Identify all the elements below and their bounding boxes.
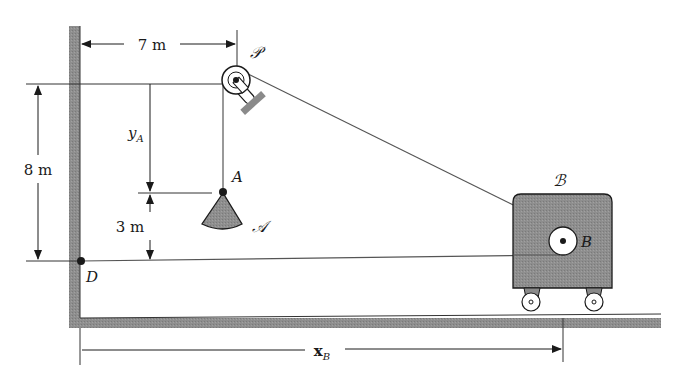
point-A-dot [219, 188, 227, 196]
dimension-3m-label: 3 m [116, 218, 145, 236]
dimension-3m: 3 m [116, 195, 150, 259]
wall [69, 26, 80, 328]
dimension-7m-label: 7 m [138, 36, 167, 54]
point-A-label: A [230, 168, 243, 186]
dimension-7m: 7 m [82, 36, 235, 54]
body-A-label: 𝒜 [252, 217, 272, 236]
cart-B: B ℬ [513, 171, 612, 311]
cart-wheel-left [522, 288, 540, 311]
mass-A-body [202, 193, 242, 229]
dimension-yA: yA [127, 84, 150, 191]
dimension-yA-label: yA [127, 124, 144, 144]
floor [69, 314, 661, 328]
dimension-xB-label: xB [314, 342, 330, 362]
cables [80, 72, 564, 261]
pulley-axle [233, 77, 239, 83]
body-B-label: ℬ [553, 171, 567, 190]
pulley-cart-diagram: 7 m 8 m yA 3 m xB [0, 0, 674, 384]
dimension-8m-label: 8 m [24, 161, 53, 179]
cart-winch [549, 227, 577, 255]
dimension-xB: xB [82, 342, 561, 362]
cart-wheel-right [585, 288, 603, 311]
point-D-label: D [85, 268, 98, 286]
point-B-label: B [580, 233, 592, 251]
dimension-8m: 8 m [24, 86, 53, 259]
pulley-label: 𝒫 [250, 43, 266, 62]
line-D-to-B [80, 255, 560, 261]
mass-A: A 𝒜 [202, 168, 272, 236]
point-D-dot [77, 257, 85, 265]
